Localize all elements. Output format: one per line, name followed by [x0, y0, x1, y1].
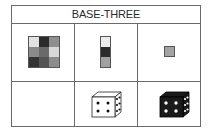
grid-cell	[39, 57, 49, 67]
single-cell-block	[165, 47, 174, 56]
grid-cell	[39, 47, 49, 57]
grid-cell	[39, 37, 49, 47]
column-cell	[101, 57, 110, 67]
white-die-icon	[91, 91, 123, 119]
grid-cell	[29, 57, 39, 67]
base-three-table: BASE-THREE	[11, 5, 201, 127]
black-die-icon	[159, 91, 191, 119]
column-3x1-block	[101, 37, 110, 67]
column-divider-2	[137, 24, 138, 127]
grid-3x3-block	[29, 37, 59, 67]
column-cell	[101, 37, 110, 47]
column-divider-1	[74, 24, 75, 127]
grid-cell	[29, 37, 39, 47]
grid-cell	[49, 47, 59, 57]
row-divider	[12, 81, 200, 82]
table-header: BASE-THREE	[12, 6, 200, 24]
grid-cell	[49, 57, 59, 67]
grid-cell	[29, 47, 39, 57]
column-cell	[101, 47, 110, 57]
grid-cell	[49, 37, 59, 47]
